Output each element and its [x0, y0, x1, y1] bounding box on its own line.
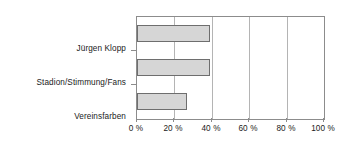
x-axis-label-0: 0 % [116, 124, 156, 134]
bar [137, 59, 210, 76]
x-axis-label-100: 100 % [303, 124, 343, 134]
x-axis-label-60: 60 % [228, 124, 268, 134]
x-axis-tick-0 [136, 118, 137, 122]
x-axis-tick-40 [211, 118, 212, 122]
x-axis-tick-60 [248, 118, 249, 122]
category-label-juergen-klopp: Jürgen Klopp [0, 44, 126, 53]
x-axis-label-40: 40 % [191, 124, 231, 134]
bar [137, 93, 187, 110]
bar [137, 25, 210, 42]
x-axis-tick-80 [286, 118, 287, 122]
category-axis-labels: Jürgen Klopp Stadion/Stimmung/Fans Verei… [0, 16, 131, 118]
plot-area [136, 16, 325, 120]
category-label-stadion-stimmung-fans: Stadion/Stimmung/Fans [0, 78, 126, 87]
bars-layer [137, 17, 324, 119]
x-axis-label-20: 20 % [153, 124, 193, 134]
x-axis-tick-20 [173, 118, 174, 122]
category-label-vereinsfarben: Vereinsfarben [0, 112, 126, 121]
x-axis-label-80: 80 % [266, 124, 306, 134]
bar-chart: Jürgen Klopp Stadion/Stimmung/Fans Verei… [0, 0, 345, 148]
x-axis-tick-100 [323, 118, 324, 122]
